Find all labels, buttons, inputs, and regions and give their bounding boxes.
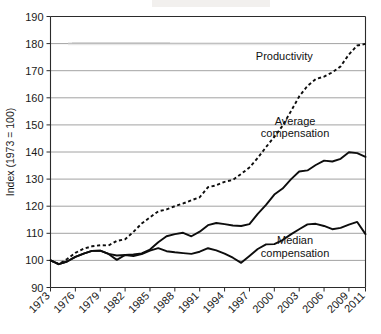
annotation-productivity: Productivity xyxy=(256,50,313,62)
productivity-compensation-chart: 90100110120130140150160170180190 1973197… xyxy=(0,0,381,334)
y-tick-label-180: 180 xyxy=(25,38,43,50)
y-tick-label-100: 100 xyxy=(25,254,43,266)
scan-artifact-top xyxy=(152,0,270,7)
annotation-line: Average xyxy=(275,115,316,127)
annotation-line: compensation xyxy=(261,127,330,139)
y-tick-label-130: 130 xyxy=(25,173,43,185)
chart-background xyxy=(0,0,381,334)
scan-smudge-artifact xyxy=(68,43,300,44)
y-tick-label-110: 110 xyxy=(26,227,44,239)
y-tick-label-150: 150 xyxy=(25,119,43,131)
annotation-line: compensation xyxy=(261,247,330,259)
annotation-line: Productivity xyxy=(256,50,313,62)
chart-canvas: 90100110120130140150160170180190 1973197… xyxy=(0,0,381,334)
y-axis-title: Index (1973 = 100) xyxy=(4,108,16,196)
y-tick-label-170: 170 xyxy=(25,65,43,77)
y-tick-label-160: 160 xyxy=(25,92,43,104)
annotation-line: Median xyxy=(277,234,313,246)
y-tick-label-120: 120 xyxy=(25,200,43,212)
y-axis-title-text: Index (1973 = 100) xyxy=(4,108,16,196)
y-tick-label-140: 140 xyxy=(25,146,43,158)
y-tick-label-190: 190 xyxy=(25,11,43,23)
